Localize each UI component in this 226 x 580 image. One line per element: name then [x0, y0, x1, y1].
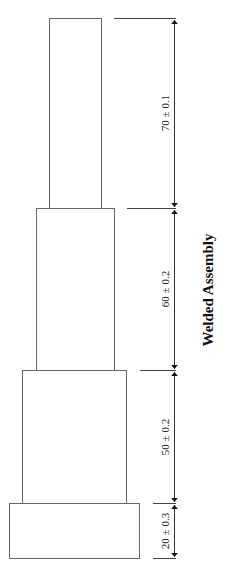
section-4-top-body	[50, 19, 102, 209]
dimension-label-50: 50 ± 0.2	[159, 419, 171, 455]
diagram-title: Welded Assembly	[200, 233, 216, 346]
dimension-label-20: 20 ± 0.3	[159, 512, 171, 549]
dimension-label-60: 60 ± 0.2	[159, 271, 171, 307]
dimension-label-70: 70 ± 0.1	[159, 95, 171, 131]
welded-assembly-drawing: 70 ± 0.1 60 ± 0.2 50 ± 0.2 20 ± 0.3 Weld…	[0, 0, 226, 580]
section-1-base-body	[10, 504, 140, 559]
section-2-body	[23, 371, 127, 504]
section-3-body	[37, 209, 115, 371]
